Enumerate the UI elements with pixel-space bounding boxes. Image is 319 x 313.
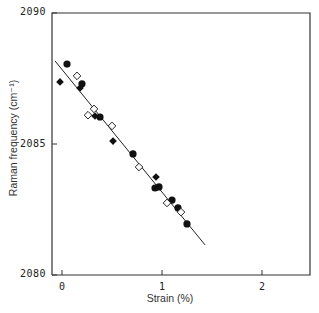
open-diamond-marker (135, 163, 143, 171)
x-tick-label-0: 0 (59, 281, 65, 292)
open-diamond-marker (84, 111, 92, 119)
open-diamond-marker (73, 72, 81, 80)
filled-circle-marker (129, 150, 136, 157)
raman-strain-chart (0, 0, 319, 313)
x-axis-label: Strain (%) (140, 292, 200, 304)
y-tick-label-2085: 2085 (20, 138, 46, 149)
filled-diamond-marker (109, 137, 117, 145)
y-axis-label-text: Raman frequency (cm⁻¹) (7, 79, 19, 195)
x-tick-label-1: 1 (159, 281, 165, 292)
filled-circle-marker (63, 60, 70, 67)
filled-circle-marker (155, 183, 162, 190)
x-tick-label-2: 2 (259, 281, 265, 292)
filled-circle-marker (183, 220, 190, 227)
plot-area (0, 0, 319, 313)
y-tick-label-2080: 2080 (20, 268, 46, 279)
axes-frame (52, 13, 310, 275)
filled-diamond-marker (56, 78, 64, 86)
filled-diamond-marker (152, 173, 160, 181)
open-diamond-marker (108, 122, 116, 130)
y-tick-label-2090: 2090 (20, 6, 46, 17)
